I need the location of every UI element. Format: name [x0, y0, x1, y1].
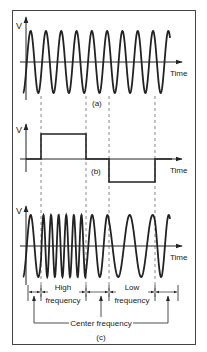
panel-b-v-label: V	[16, 125, 22, 135]
fm-diagram: V Time (a) V Time (b) V Time	[0, 0, 207, 352]
panel-a-v-label: V	[16, 21, 22, 31]
panel-b-time-label: Time	[170, 166, 188, 175]
panel-a-caption: (a)	[92, 99, 102, 108]
panel-c-caption: (c)	[96, 333, 106, 342]
panel-a: V Time (a)	[16, 17, 188, 108]
panel-b: V Time (b)	[16, 124, 188, 182]
center-frequency-label: Center frequency	[70, 319, 131, 328]
low-label: Low	[125, 283, 140, 292]
low-frequency-label: frequency	[114, 296, 149, 305]
high-label: High	[55, 283, 71, 292]
high-frequency-label: frequency	[45, 296, 80, 305]
panel-c-v-label: V	[16, 206, 22, 216]
panel-c: V Time High frequency Low frequency	[16, 206, 188, 342]
panel-c-time-label: Time	[170, 253, 188, 262]
panel-b-caption: (b)	[91, 167, 101, 176]
panel-a-time-label: Time	[170, 69, 188, 78]
